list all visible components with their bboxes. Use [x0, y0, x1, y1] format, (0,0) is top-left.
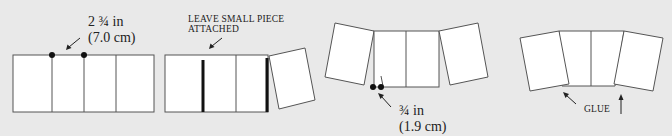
measurement-label-in: 2 ¾ in	[88, 14, 123, 29]
strip-outline	[165, 55, 268, 112]
instruction-label: LEAVE SMALL PIECE	[188, 14, 284, 24]
measure-dot	[49, 52, 55, 58]
measurement-label-in: ¾ in	[399, 103, 424, 118]
measurement-label-cm: (7.0 cm)	[88, 30, 136, 46]
measure-dot	[378, 84, 384, 90]
measure-dot	[81, 52, 87, 58]
measurement-label-cm: (1.9 cm)	[399, 119, 447, 135]
glue-label: GLUE	[584, 104, 610, 114]
measure-dot	[370, 84, 376, 90]
instruction-label: ATTACHED	[188, 24, 239, 34]
diagram-canvas: 2 ¾ in (7.0 cm) LEAVE SMALL PIECE ATTACH…	[0, 0, 672, 136]
